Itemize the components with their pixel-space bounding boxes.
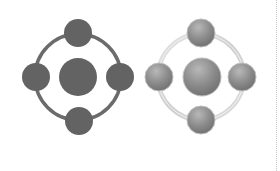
node-bottom: [65, 107, 93, 135]
hub-circle: [183, 58, 221, 96]
network-hub-icon-glossy: [145, 19, 256, 134]
node-right: [106, 63, 134, 91]
icon-artwork: [0, 0, 280, 171]
node-bottom: [187, 106, 215, 134]
hub-circle: [59, 58, 97, 96]
node-left: [22, 63, 50, 91]
node-left: [145, 63, 173, 91]
node-right: [228, 63, 256, 91]
icon-canvas: [0, 0, 280, 171]
node-top: [187, 19, 215, 47]
network-hub-icon-flat: [22, 19, 134, 135]
dotted-edge-divider: [276, 0, 277, 171]
node-top: [64, 19, 92, 47]
